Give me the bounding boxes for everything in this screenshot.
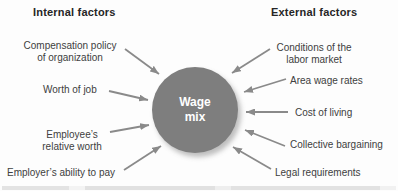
arrow-compensation-policy <box>125 49 159 74</box>
factor-label-employers-ability-to-pay: Employer’s ability to pay <box>7 167 115 179</box>
scan-artifact <box>2 186 396 190</box>
factor-label-area-wage-rates: Area wage rates <box>290 75 363 87</box>
factor-label-compensation-policy: Compensation policy of organization <box>12 40 128 64</box>
wage-mix-diagram: Internal factors External factors Wage m… <box>0 0 398 191</box>
arrow-worth-of-job <box>109 91 148 100</box>
factor-label-worth-of-job: Worth of job <box>43 84 97 96</box>
factor-label-conditions-labor-market: Conditions of the labor market <box>254 42 374 66</box>
arrow-collective-bargaining <box>245 130 285 146</box>
arrow-area-wage-rates <box>244 79 286 92</box>
wage-mix-circle: Wage mix <box>152 67 238 153</box>
factor-label-employees-relative-worth: Employee’s relative worth <box>12 129 132 153</box>
wage-mix-label: Wage mix <box>179 95 211 125</box>
factor-label-legal-requirements: Legal requirements <box>275 167 361 179</box>
factor-label-cost-of-living: Cost of living <box>295 107 352 119</box>
arrow-legal-requirements <box>233 147 271 169</box>
factor-label-collective-bargaining: Collective bargaining <box>290 139 383 151</box>
